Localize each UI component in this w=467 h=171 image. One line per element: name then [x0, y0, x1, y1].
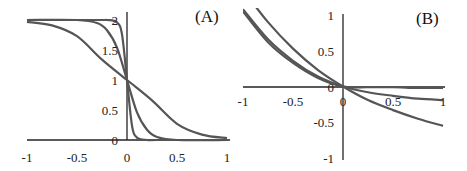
- panel-label: (A): [195, 7, 219, 26]
- panel-label: (B): [416, 9, 439, 28]
- x-tick-label: 0.5: [385, 94, 401, 109]
- panel-a: -1-0.500.5100.511.52(A): [22, 7, 231, 165]
- y-tick-label: 2: [112, 13, 119, 28]
- y-tick-label: 0: [112, 133, 119, 148]
- y-tick-label: 1.5: [102, 43, 118, 58]
- y-tick-label: -0.5: [313, 115, 334, 130]
- y-tick-label: 0.5: [102, 103, 118, 118]
- x-tick-label: -1: [22, 150, 33, 165]
- panel-b: -1-0.500.51-1-0.500.51(B): [238, 0, 447, 166]
- x-tick-label: 1: [224, 150, 231, 165]
- y-tick-label: 0.5: [318, 44, 334, 59]
- x-tick-label: -0.5: [283, 94, 304, 109]
- y-tick-label: 0: [328, 80, 335, 95]
- x-tick-label: -1: [238, 94, 249, 109]
- y-tick-label: -1: [323, 151, 334, 166]
- x-tick-label: 0: [340, 94, 347, 109]
- y-tick-label: 1: [112, 73, 119, 88]
- figure: -1-0.500.5100.511.52(A) -1-0.500.51-1-0.…: [0, 0, 467, 171]
- x-tick-label: 0: [124, 150, 131, 165]
- x-tick-label: -0.5: [67, 150, 88, 165]
- x-tick-label: 1: [440, 94, 447, 109]
- x-tick-label: 0.5: [169, 150, 185, 165]
- y-tick-label: 1: [328, 8, 335, 23]
